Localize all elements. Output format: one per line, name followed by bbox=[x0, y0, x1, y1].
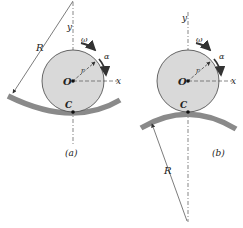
label-C: C bbox=[180, 100, 188, 110]
omega-arrow bbox=[196, 43, 210, 50]
label-R: R bbox=[35, 42, 44, 53]
panel-a: y R ω α r O x C (a) bbox=[8, 1, 121, 158]
panel-b: y ω α r O x C R (b) bbox=[141, 12, 236, 222]
label-omega: ω bbox=[196, 35, 203, 44]
label-O: O bbox=[63, 76, 72, 87]
label-omega: ω bbox=[81, 35, 88, 44]
label-x: x bbox=[231, 76, 236, 86]
label-alpha: α bbox=[104, 52, 110, 61]
label-y: y bbox=[66, 22, 73, 32]
omega-arrow bbox=[81, 43, 95, 50]
label-y: y bbox=[181, 13, 188, 23]
label-R: R bbox=[163, 165, 172, 176]
label-alpha: α bbox=[219, 52, 225, 61]
contact-point bbox=[71, 110, 75, 114]
contact-point bbox=[186, 110, 190, 114]
center-point bbox=[71, 79, 75, 83]
caption-a: (a) bbox=[65, 148, 78, 158]
rolling-disk-diagram: y R ω α r O x C (a) y ω α r O x bbox=[0, 0, 243, 228]
caption-b: (b) bbox=[212, 148, 225, 158]
label-C: C bbox=[65, 100, 73, 110]
convex-surface bbox=[141, 114, 236, 129]
label-x: x bbox=[116, 76, 121, 86]
center-point bbox=[186, 79, 190, 83]
label-O: O bbox=[178, 76, 187, 87]
